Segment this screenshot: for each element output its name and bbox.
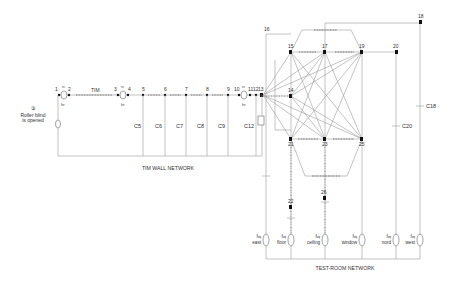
rc-label: rc — [121, 85, 124, 89]
svg-text:26: 26 — [321, 189, 327, 195]
capacitor-label: C20 — [402, 123, 412, 129]
svg-text:17: 17 — [322, 43, 328, 49]
svg-text:window: window — [342, 240, 358, 245]
svg-text:ceiling: ceiling — [307, 240, 320, 245]
svg-text:9: 9 — [227, 86, 230, 92]
svg-text:feq: feq — [352, 234, 357, 239]
svg-text:8: 8 — [206, 86, 209, 92]
svg-text:6: 6 — [164, 86, 167, 92]
hr-label: hr — [242, 102, 246, 107]
roller-note: is opened — [22, 117, 44, 123]
svg-text:feq: feq — [256, 234, 261, 239]
svg-text:C9: C9 — [218, 123, 225, 129]
svg-text:21: 21 — [288, 141, 294, 147]
tim-label: TIM — [91, 87, 100, 93]
svg-text:22: 22 — [288, 198, 294, 204]
heat-sources: feq east feq floor feq ceiling feq windo… — [252, 234, 423, 246]
svg-text:floor: floor — [277, 240, 286, 245]
svg-text:16: 16 — [264, 26, 270, 32]
hr-label: hr — [121, 102, 125, 107]
svg-text:C5: C5 — [134, 123, 141, 129]
svg-text:10: 10 — [234, 86, 240, 92]
svg-text:23: 23 — [322, 141, 328, 147]
wall-capacitor-labels: C5 C6 C7 C8 C9 C12 — [134, 123, 254, 129]
roller-number: ③ — [31, 105, 36, 111]
rc-hr-element-3 — [241, 91, 247, 99]
svg-text:feq: feq — [410, 234, 415, 239]
rc-label: rc — [242, 85, 245, 89]
svg-text:7: 7 — [185, 86, 188, 92]
svg-text:east: east — [252, 240, 261, 245]
svg-text:C12: C12 — [244, 123, 254, 129]
rc-hr-element-2 — [120, 91, 126, 99]
test-room-network: C18 C20 14 15 16 17 18 19 20 21 22 23 25… — [252, 13, 436, 271]
svg-text:1: 1 — [55, 86, 58, 92]
svg-text:nord: nord — [382, 240, 392, 245]
svg-text:3: 3 — [114, 86, 117, 92]
svg-text:feq: feq — [281, 234, 286, 239]
source-element-roller — [56, 120, 61, 128]
svg-text:west: west — [406, 240, 416, 245]
rc-hr-element-1 — [61, 91, 67, 99]
svg-text:19: 19 — [359, 43, 365, 49]
room-nodes: 14 15 16 17 18 19 20 21 22 23 25 26 — [264, 13, 424, 209]
svg-text:feq: feq — [315, 234, 320, 239]
svg-text:C7: C7 — [176, 123, 183, 129]
svg-text:C6: C6 — [155, 123, 162, 129]
svg-text:18: 18 — [418, 13, 424, 19]
thermal-network-diagram: rc hr TIM rc hr rc hr 1 2 3 4 5 6 7 8 9 … — [0, 0, 458, 287]
hr-label: hr — [61, 102, 65, 107]
svg-text:5: 5 — [142, 86, 145, 92]
tim-wall-title: TIM WALL NETWORK — [142, 165, 195, 171]
rc-label: rc — [62, 85, 65, 89]
svg-text:20: 20 — [393, 43, 399, 49]
svg-text:13: 13 — [258, 86, 264, 92]
tim-wall-network: rc hr TIM rc hr rc hr 1 2 3 4 5 6 7 8 9 … — [20, 85, 264, 171]
test-room-title: TEST-ROOM NETWORK — [316, 265, 375, 271]
svg-text:C8: C8 — [197, 123, 204, 129]
svg-text:4: 4 — [128, 86, 131, 92]
svg-text:25: 25 — [359, 141, 365, 147]
capacitor-label: C18 — [426, 103, 436, 109]
svg-text:feq: feq — [386, 234, 391, 239]
svg-text:14: 14 — [288, 87, 294, 93]
source-element-13 — [258, 116, 264, 125]
svg-text:15: 15 — [288, 43, 294, 49]
svg-text:2: 2 — [68, 86, 71, 92]
